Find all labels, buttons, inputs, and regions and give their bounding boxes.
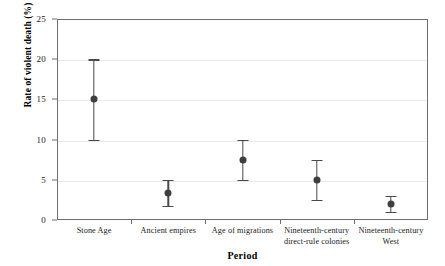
gridline bbox=[58, 100, 427, 101]
y-axis-tick-label: 5 bbox=[41, 175, 46, 185]
y-axis-tick-label: 20 bbox=[37, 54, 46, 64]
y-axis-tick-label: 15 bbox=[37, 94, 46, 104]
error-bar-cap-lower bbox=[311, 200, 322, 201]
x-axis-tick-mark bbox=[131, 220, 132, 224]
x-axis-title: Period bbox=[57, 250, 428, 261]
x-axis-category-label: Nineteenth-century West bbox=[345, 226, 437, 247]
error-bar-cap-lower bbox=[237, 180, 248, 181]
error-bar-cap-upper bbox=[385, 196, 396, 197]
y-axis-tick-label: 25 bbox=[37, 14, 46, 24]
data-point-marker bbox=[239, 156, 246, 163]
chart-figure: Rate of violent death (%) 0510152025 Per… bbox=[0, 0, 445, 266]
error-bar-cap-lower bbox=[89, 140, 100, 141]
y-axis-tick-label: 0 bbox=[41, 215, 46, 225]
error-bar-cap-lower bbox=[385, 212, 396, 213]
data-point-marker bbox=[313, 176, 320, 183]
y-axis-tick-label: 10 bbox=[37, 135, 46, 145]
gridline bbox=[58, 60, 427, 61]
x-axis-tick-mark bbox=[280, 220, 281, 224]
data-point-marker bbox=[91, 96, 98, 103]
plot-area bbox=[57, 19, 428, 220]
data-point-marker bbox=[387, 200, 394, 207]
data-point-marker bbox=[165, 189, 172, 196]
x-axis-tick-mark bbox=[205, 220, 206, 224]
error-bar-cap-upper bbox=[311, 160, 322, 161]
error-bar-cap-upper bbox=[237, 140, 248, 141]
error-bar-cap-upper bbox=[89, 59, 100, 60]
x-axis-tick-mark bbox=[354, 220, 355, 224]
error-bar-cap-lower bbox=[163, 206, 174, 207]
error-bar-cap-upper bbox=[163, 180, 174, 181]
